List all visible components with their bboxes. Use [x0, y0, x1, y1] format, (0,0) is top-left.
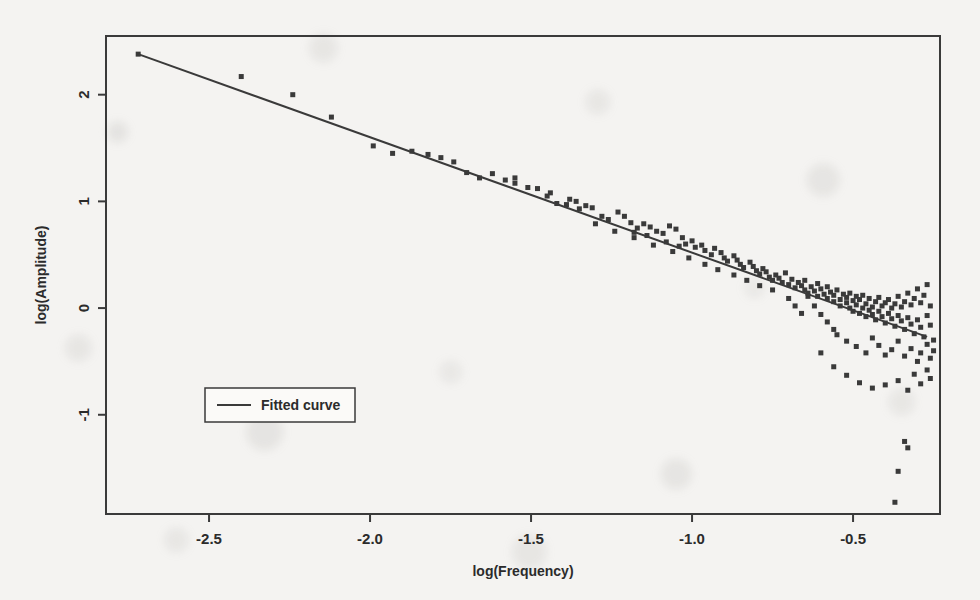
data-point — [654, 229, 659, 234]
data-point — [786, 296, 791, 301]
data-point — [426, 152, 431, 157]
data-point — [690, 238, 695, 243]
data-point — [905, 388, 910, 393]
data-point — [918, 325, 923, 330]
data-point — [512, 175, 517, 180]
data-point — [329, 115, 334, 120]
data-point — [847, 291, 852, 296]
scatter-points-group — [136, 52, 936, 505]
data-point — [783, 270, 788, 275]
data-point — [812, 289, 817, 294]
data-point — [793, 303, 798, 308]
data-point — [928, 356, 933, 361]
data-point — [902, 299, 907, 304]
data-point — [709, 252, 714, 257]
data-point — [593, 221, 598, 226]
data-point — [612, 229, 617, 234]
x-tick-label: -1.5 — [518, 530, 544, 547]
data-point — [870, 305, 875, 310]
data-point — [896, 469, 901, 474]
data-point — [818, 312, 823, 317]
y-axis-title: log(Amplitude) — [33, 226, 49, 325]
data-point — [239, 74, 244, 79]
data-point — [831, 327, 836, 332]
data-point — [661, 231, 666, 236]
data-point — [870, 386, 875, 391]
data-point — [883, 353, 888, 358]
data-point — [834, 287, 839, 292]
data-point — [876, 309, 881, 314]
legend[interactable]: Fitted curve — [205, 388, 355, 422]
data-point — [680, 235, 685, 240]
data-point — [651, 243, 656, 248]
data-point — [770, 287, 775, 292]
x-axis-title: log(Frequency) — [472, 563, 573, 579]
data-point — [889, 347, 894, 352]
data-point — [921, 293, 926, 298]
data-point — [648, 224, 653, 229]
data-point — [899, 305, 904, 310]
data-point — [876, 343, 881, 348]
data-point — [799, 311, 804, 316]
data-point — [860, 306, 865, 311]
data-point — [825, 284, 830, 289]
data-point — [635, 226, 640, 231]
data-point — [667, 223, 672, 228]
data-point — [925, 367, 930, 372]
data-point — [905, 445, 910, 450]
data-point — [776, 276, 781, 281]
data-point — [889, 306, 894, 311]
data-point — [918, 300, 923, 305]
data-point — [741, 265, 746, 270]
data-point — [641, 221, 646, 226]
data-point — [574, 199, 579, 204]
data-point — [735, 258, 740, 263]
data-point — [912, 372, 917, 377]
data-point — [802, 278, 807, 283]
data-point — [892, 500, 897, 505]
data-point — [390, 151, 395, 156]
data-point — [438, 155, 443, 160]
data-point — [490, 171, 495, 176]
data-point — [525, 185, 530, 190]
data-point — [371, 143, 376, 148]
data-point — [896, 378, 901, 383]
data-point — [838, 297, 843, 302]
data-point — [844, 300, 849, 305]
fitted-curve-line — [138, 54, 927, 337]
data-point — [831, 364, 836, 369]
data-point — [873, 299, 878, 304]
data-point — [764, 269, 769, 274]
data-point — [731, 273, 736, 278]
data-point — [748, 260, 753, 265]
data-point — [815, 281, 820, 286]
data-point — [870, 335, 875, 340]
y-tick-label: 2 — [76, 91, 93, 99]
data-point — [822, 292, 827, 297]
data-point — [451, 159, 456, 164]
data-point — [751, 264, 756, 269]
data-point — [548, 190, 553, 195]
data-point — [860, 293, 865, 298]
y-tick-label: 1 — [76, 197, 93, 205]
data-point — [909, 346, 914, 351]
data-point — [622, 214, 627, 219]
data-point — [844, 295, 849, 300]
data-point — [799, 283, 804, 288]
data-point — [590, 205, 595, 210]
data-point — [928, 376, 933, 381]
data-point — [857, 380, 862, 385]
plot-frame — [106, 36, 940, 514]
data-point — [812, 303, 817, 308]
x-tick-label: -1.0 — [679, 530, 705, 547]
data-point — [915, 359, 920, 364]
data-point — [825, 319, 830, 324]
data-point — [670, 249, 675, 254]
data-point — [809, 284, 814, 289]
data-point — [789, 277, 794, 282]
data-point — [851, 298, 856, 303]
data-point — [757, 283, 762, 288]
data-point — [844, 339, 849, 344]
data-point — [503, 178, 508, 183]
data-point — [857, 297, 862, 302]
